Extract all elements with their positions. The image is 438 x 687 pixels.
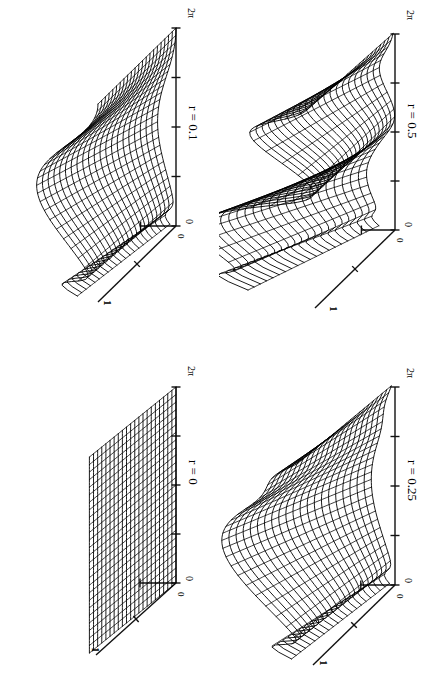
mesh-line-depth bbox=[336, 404, 369, 601]
mesh-line-theta bbox=[270, 54, 385, 123]
mesh-line-theta bbox=[313, 117, 394, 195]
mesh-line-theta bbox=[89, 575, 176, 645]
theta-zero-label-r05: 0 bbox=[403, 222, 413, 227]
mesh-line-theta bbox=[90, 50, 173, 124]
wireframe-surface-r05 bbox=[219, 0, 438, 343]
mesh-line-theta bbox=[260, 429, 381, 498]
mesh-line-theta bbox=[89, 568, 176, 638]
mesh-line-theta bbox=[298, 40, 391, 115]
mesh-line-theta bbox=[71, 178, 168, 249]
theta-max-label-r025: 2π bbox=[405, 368, 415, 378]
mesh-line-theta bbox=[219, 216, 372, 274]
theta-max-label-r0: 2π bbox=[186, 366, 196, 376]
mesh-line-theta bbox=[89, 530, 176, 600]
mesh-r05 bbox=[219, 33, 395, 290]
mesh-line-theta bbox=[89, 508, 176, 578]
mesh-line-theta bbox=[89, 500, 176, 570]
theta-max-label-r01: 2π bbox=[186, 8, 196, 18]
theta-zero-label-r01: 0 bbox=[184, 219, 194, 224]
mesh-line-theta bbox=[89, 402, 176, 472]
depth-max-label-r025: 1 bbox=[318, 660, 329, 666]
wireframe-surface-r025 bbox=[219, 344, 438, 687]
mesh-line-theta bbox=[62, 215, 165, 284]
mesh-line-theta bbox=[89, 387, 176, 457]
mesh-line-theta bbox=[89, 432, 176, 502]
mesh-line-theta bbox=[89, 455, 176, 525]
mesh-line-theta bbox=[285, 47, 388, 119]
mesh-line-theta bbox=[89, 493, 176, 563]
mesh-line-depth bbox=[222, 463, 299, 659]
mesh-line-theta bbox=[307, 33, 393, 109]
mesh-line-theta bbox=[89, 417, 176, 487]
plot-panel-r025: r = 0.25 2π 0 0 1 bbox=[219, 344, 438, 687]
depth-zero-label-r025: 0 bbox=[395, 594, 404, 599]
surface-plot-figure: r = 0.1 2π 0 0 1 r = 0.5 2π 0 0 1 r = 0 … bbox=[0, 0, 438, 687]
panel-param-label-r0: r = 0 bbox=[187, 460, 200, 485]
mesh-line-theta bbox=[40, 137, 158, 201]
depth-zero-label-r0: 0 bbox=[176, 592, 185, 597]
mesh-line-theta bbox=[89, 440, 176, 510]
mesh-r025 bbox=[222, 386, 391, 659]
mesh-line-depth bbox=[65, 86, 116, 279]
mesh-line-theta bbox=[282, 92, 387, 163]
plot-panel-r05: r = 0.5 2π 0 0 1 bbox=[219, 0, 438, 343]
depth-max-label-r05: 1 bbox=[328, 306, 339, 312]
plot-panel-r01: r = 0.1 2π 0 0 1 bbox=[0, 0, 219, 343]
panel-param-label-r05: r = 0.5 bbox=[406, 104, 419, 138]
mesh-line-theta bbox=[89, 515, 176, 585]
wireframe-surface-r0 bbox=[0, 344, 219, 687]
mesh-line-theta bbox=[89, 553, 176, 623]
mesh-line-depth bbox=[293, 426, 343, 623]
depth-max-label-r01: 1 bbox=[102, 300, 113, 306]
mesh-line-theta bbox=[78, 186, 170, 258]
plot-panel-r0: r = 0 2π 0 0 1 bbox=[0, 344, 219, 687]
theta-zero-label-r025: 0 bbox=[403, 578, 413, 583]
depth-max-label-r0: 1 bbox=[90, 647, 101, 653]
mesh-line-theta bbox=[64, 170, 166, 239]
mesh-line-theta bbox=[89, 470, 176, 540]
mesh-line-theta bbox=[89, 583, 176, 653]
mesh-line-theta bbox=[89, 447, 176, 517]
depth-zero-label-r05: 0 bbox=[395, 238, 404, 243]
mesh-line-theta bbox=[264, 422, 382, 492]
mesh-line-theta bbox=[89, 410, 176, 480]
mesh-line-theta bbox=[219, 170, 367, 224]
mesh-line-theta bbox=[89, 425, 176, 495]
mesh-line-depth bbox=[367, 33, 395, 225]
mesh-line-theta bbox=[231, 457, 374, 520]
mesh-line-theta bbox=[89, 462, 176, 532]
mesh-line-theta bbox=[89, 477, 176, 547]
mesh-r0 bbox=[89, 387, 176, 653]
mesh-line-theta bbox=[229, 202, 375, 262]
theta-max-label-r05: 2π bbox=[405, 10, 415, 20]
mesh-r01 bbox=[37, 28, 176, 296]
mesh-line-theta bbox=[292, 568, 390, 644]
theta-zero-label-r0: 0 bbox=[184, 576, 194, 581]
mesh-line-theta bbox=[38, 129, 158, 193]
mesh-line-theta bbox=[279, 400, 386, 473]
panel-param-label-r025: r = 0.25 bbox=[406, 460, 419, 501]
axes-r01 bbox=[98, 28, 181, 302]
depth-zero-label-r01: 0 bbox=[176, 234, 185, 239]
mesh-line-theta bbox=[89, 395, 176, 465]
mesh-line-theta bbox=[248, 226, 379, 290]
wireframe-surface-r01 bbox=[0, 0, 219, 343]
panel-param-label-r01: r = 0.1 bbox=[187, 106, 200, 140]
mesh-line-theta bbox=[89, 545, 176, 615]
mesh-line-theta bbox=[89, 523, 176, 593]
mesh-line-theta bbox=[89, 538, 176, 608]
mesh-line-theta bbox=[89, 485, 176, 555]
